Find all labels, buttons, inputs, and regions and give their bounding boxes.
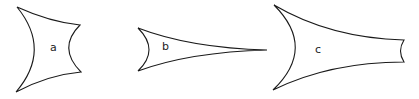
shape-c bbox=[273, 5, 404, 90]
shape-a-label: a bbox=[50, 42, 57, 53]
shape-b-label: b bbox=[162, 41, 169, 52]
shape-b bbox=[138, 28, 267, 71]
shape-c-label: c bbox=[315, 44, 321, 55]
shape-a bbox=[16, 7, 81, 92]
diagram-canvas bbox=[0, 0, 419, 99]
